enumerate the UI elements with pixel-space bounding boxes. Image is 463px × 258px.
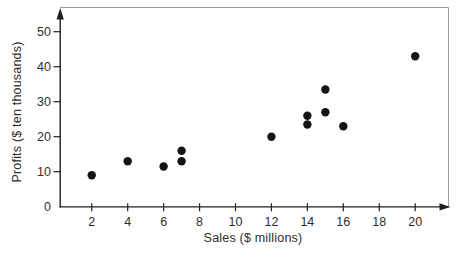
y-tick-label: 50: [37, 25, 51, 39]
x-tick-label: 16: [336, 215, 350, 229]
data-point: [411, 52, 419, 60]
y-axis-title: Profits ($ ten thousands): [10, 41, 24, 182]
x-tick-label: 6: [160, 215, 167, 229]
y-tick-label: 10: [37, 165, 51, 179]
data-point: [177, 147, 185, 155]
data-point: [88, 171, 96, 179]
data-point: [303, 112, 311, 120]
y-tick-label: 30: [37, 95, 51, 109]
scatter-plot-figure: 010203040502468101214161820 Profits ($ t…: [0, 0, 463, 258]
data-point: [267, 133, 275, 141]
x-tick-label: 18: [372, 215, 386, 229]
data-point: [159, 162, 167, 170]
y-tick-label: 40: [37, 60, 51, 74]
x-tick-label: 8: [196, 215, 203, 229]
plot-frame: [60, 8, 449, 207]
data-point: [339, 122, 347, 130]
x-tick-label: 10: [229, 215, 243, 229]
x-tick-label: 20: [408, 215, 422, 229]
data-point: [321, 108, 329, 116]
data-point: [123, 157, 131, 165]
x-tick-label: 2: [88, 215, 95, 229]
x-tick-label: 12: [264, 215, 278, 229]
x-tick-label: 4: [124, 215, 131, 229]
data-point: [321, 85, 329, 93]
scatter-plot-canvas: 010203040502468101214161820: [0, 0, 463, 258]
y-tick-label: 20: [37, 130, 51, 144]
x-axis-title: Sales ($ millions): [204, 231, 303, 245]
y-axis-arrow-icon: [57, 8, 64, 20]
data-point: [177, 157, 185, 165]
data-point: [303, 120, 311, 128]
x-tick-label: 14: [300, 215, 314, 229]
y-tick-label: 0: [44, 200, 51, 214]
